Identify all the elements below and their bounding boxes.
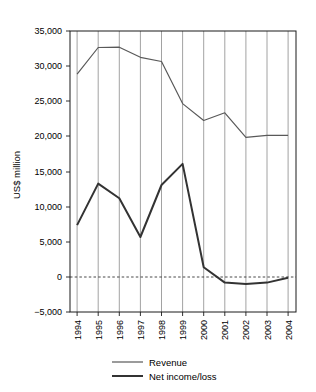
x-tick-label-2000: 2000	[199, 320, 209, 340]
y-tick-label-20000: 20,000	[34, 131, 62, 141]
x-tick-label-1994: 1994	[73, 320, 83, 340]
x-tick-label-2002: 2002	[241, 320, 251, 340]
legend-label-revenue: Revenue	[149, 357, 187, 368]
line-chart: US$ million 35,000 30,000 25,000 20,000 …	[0, 0, 316, 392]
y-tick-label-15000: 15,000	[34, 167, 62, 177]
x-tick-label-2003: 2003	[263, 320, 273, 340]
x-tick-label-2004: 2004	[284, 320, 294, 340]
y-tick-label-25000: 25,000	[34, 96, 62, 106]
x-tick-label-1998: 1998	[157, 320, 167, 340]
x-tick-label-1999: 1999	[178, 320, 188, 340]
x-tick-label-1995: 1995	[94, 320, 104, 340]
y-axis-title: US$ million	[11, 151, 22, 199]
y-tick-label-5000: 5,000	[39, 237, 62, 247]
chart-container: US$ million 35,000 30,000 25,000 20,000 …	[0, 0, 316, 392]
x-tick-label-1996: 1996	[115, 320, 125, 340]
y-tick-label-0: 0	[57, 272, 62, 282]
y-tick-label-10000: 10,000	[34, 202, 62, 212]
x-tick-label-1997: 1997	[136, 320, 146, 340]
y-axis-title-group: US$ million	[11, 151, 22, 199]
x-tick-label-2001: 2001	[220, 320, 230, 340]
y-tick-label-minus5000: −5,000	[34, 307, 62, 317]
legend-label-net-income-loss: Net income/loss	[149, 371, 217, 382]
y-tick-label-30000: 30,000	[34, 61, 62, 71]
y-tick-label-35000: 35,000	[34, 26, 62, 36]
